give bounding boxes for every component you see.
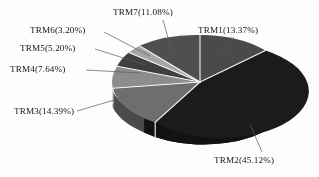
- label-trm6: TRM6(3.20%): [30, 26, 85, 35]
- label-trm2: TRM2(45.12%): [214, 156, 274, 165]
- label-trm1: TRM1(13.37%): [198, 26, 258, 35]
- label-trm4: TRM4(7.64%): [10, 65, 65, 74]
- leader-line-trm6: [104, 32, 150, 56]
- label-trm7: TRM7(11.08%): [113, 8, 173, 17]
- label-trm5: TRM5(5.20%): [20, 44, 75, 53]
- label-trm3: TRM3(14.39%): [14, 107, 74, 116]
